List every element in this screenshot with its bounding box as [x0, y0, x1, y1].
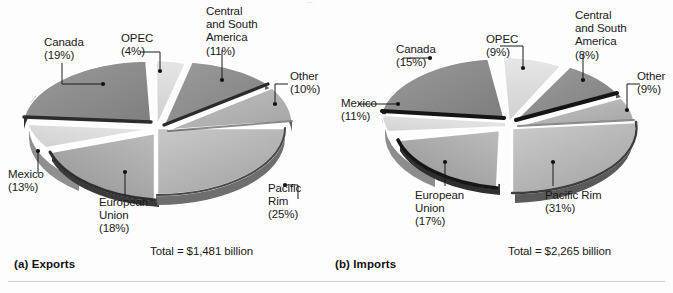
label-mexico: Mexico (13%) [8, 168, 44, 194]
label-canada: Canada (15%) [396, 43, 436, 69]
imports-panel: Canada (15%) OPEC (9%) Central and South… [340, 0, 673, 293]
label-canada: Canada (19%) [44, 36, 84, 62]
label-opec: OPEC (9%) [486, 33, 518, 59]
slice-canada [24, 61, 151, 122]
label-pacific-rim: Pacific Rim (31%) [545, 189, 601, 215]
label-other: Other (9%) [637, 70, 665, 96]
label-other: Other (10%) [290, 70, 320, 96]
label-central-south-america: Central and South America (8%) [575, 9, 627, 62]
label-mexico: Mexico (11%) [341, 97, 377, 123]
label-pacific-rim: Pacific Rim (25%) [268, 182, 301, 222]
slice-pacific-rim [157, 128, 285, 195]
label-european-union: European Union (17%) [415, 189, 464, 229]
label-opec: OPEC (4%) [121, 32, 153, 58]
imports-total: Total = $2,265 billion [508, 245, 611, 257]
label-central-south-america: Central and South America (11%) [206, 5, 258, 58]
trade-figure: Trade partners [0, 0, 673, 293]
exports-caption: (a) Exports [14, 258, 75, 270]
imports-caption: (b) Imports [335, 258, 396, 270]
figure-bottom-rule [8, 281, 665, 282]
exports-panel: Canada (19%) OPEC (4%) Central and South… [0, 0, 340, 293]
slice-pacific-rim [512, 122, 637, 193]
label-european-union: European Union (18%) [99, 196, 148, 236]
exports-total: Total = $1,481 billion [150, 245, 253, 257]
